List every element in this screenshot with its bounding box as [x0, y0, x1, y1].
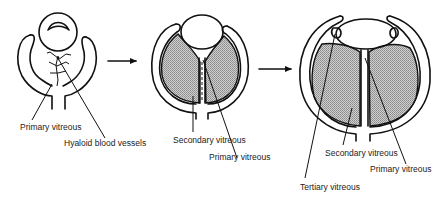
label-primary-vitreous-1: Primary vitreous [20, 122, 81, 132]
stage-3-eye [300, 16, 430, 141]
label-tertiary-vitreous: Tertiary vitreous [300, 182, 360, 192]
stage-1-optic-cup [18, 13, 96, 109]
label-hyaloid-blood-vessels: Hyaloid blood vessels [64, 138, 146, 148]
stage-2-eye [152, 15, 249, 119]
label-primary-vitreous-2: Primary vitreous [209, 152, 270, 162]
label-secondary-vitreous-3: Secondary vitreous [325, 148, 398, 158]
label-primary-vitreous-3: Primary vitreous [370, 164, 431, 174]
vitreous-development-diagram: Primary vitreous Hyaloid blood vessels S… [0, 0, 446, 202]
label-secondary-vitreous-2: Secondary vitreous [173, 135, 246, 145]
